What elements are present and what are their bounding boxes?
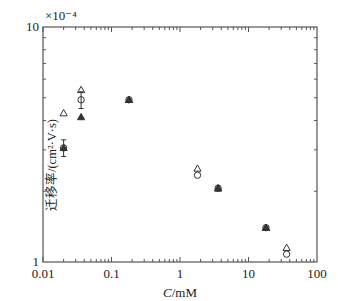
series-open-circle <box>60 92 289 258</box>
filled-triangle-marker <box>78 113 85 119</box>
x-tick-labels: 0.010.1110100 <box>32 266 327 281</box>
x-axis-title: C/mM <box>163 285 197 300</box>
open-triangle-marker <box>60 110 67 116</box>
series-open-triangle <box>60 86 290 250</box>
data-points <box>60 86 290 257</box>
y-multiplier-label: ×10⁻⁴ <box>45 8 77 23</box>
x-axis-title-unit: /mM <box>172 285 198 300</box>
open-triangle-marker <box>283 244 290 250</box>
y-tick-labels: 110 <box>26 19 39 269</box>
circle-marker <box>194 172 200 178</box>
x-tick-label: 1 <box>177 266 184 281</box>
series-filled-triangle <box>60 96 270 230</box>
x-tick-label: 10 <box>242 266 255 281</box>
y-axis-title: 迁移率/(cm²·V·s) <box>41 119 60 211</box>
y-tick-label: 1 <box>33 254 40 269</box>
x-axis-title-var: C <box>163 285 172 300</box>
plot-border <box>43 27 317 262</box>
plot-frame <box>43 27 317 262</box>
x-tick-label: 100 <box>307 266 327 281</box>
y-tick-label: 10 <box>26 19 39 34</box>
circle-marker <box>283 251 289 257</box>
axis-ticks <box>43 27 317 262</box>
open-triangle-marker <box>194 165 201 171</box>
x-tick-label: 0.1 <box>103 266 119 281</box>
